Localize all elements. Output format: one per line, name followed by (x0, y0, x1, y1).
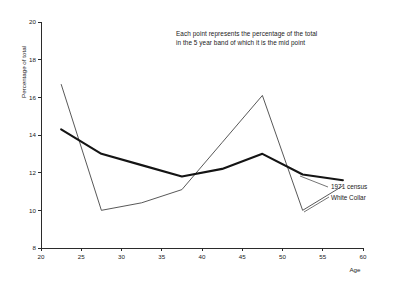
y-axis-title: Percentage of total (20, 46, 27, 98)
y-axis-ticks: 8101214161820 (29, 18, 41, 251)
data-series (61, 84, 343, 210)
series-callouts: 1971 census White Collar (300, 176, 367, 212)
y-tick-label: 16 (29, 94, 36, 101)
series-line-white-collar (61, 84, 343, 210)
y-tick-label: 14 (29, 131, 36, 138)
x-tick-label: 55 (319, 253, 326, 260)
y-tick-label: 12 (29, 169, 36, 176)
x-axis-ticks: 202530354045505560 (38, 248, 367, 260)
annotation-line-1: Each point represents the percentage of … (176, 30, 317, 37)
x-tick-label: 40 (199, 253, 206, 260)
leader-line-white-collar (304, 197, 329, 212)
y-tick-label: 8 (33, 244, 37, 251)
x-tick-label: 60 (360, 253, 367, 260)
x-tick-label: 45 (239, 253, 246, 260)
x-axis-title: Age (349, 266, 361, 273)
series-label-1971-census: 1971 census (331, 183, 367, 190)
chart-annotation: Each point represents the percentage of … (176, 29, 317, 47)
y-tick-label: 20 (29, 18, 36, 25)
chart-figure: 8101214161820 202530354045505560 Percent… (0, 0, 393, 293)
x-tick-label: 20 (38, 253, 45, 260)
x-tick-label: 30 (118, 253, 125, 260)
axes (41, 22, 363, 248)
series-line-1971-census (61, 129, 343, 180)
x-tick-label: 35 (158, 253, 165, 260)
x-tick-label: 25 (78, 253, 85, 260)
series-label-white-collar: White Collar (331, 194, 367, 201)
y-tick-label: 18 (29, 56, 36, 63)
annotation-line-2: in the 5 year band of which it is the mi… (176, 39, 305, 46)
y-tick-label: 10 (29, 207, 36, 214)
x-tick-label: 50 (279, 253, 286, 260)
